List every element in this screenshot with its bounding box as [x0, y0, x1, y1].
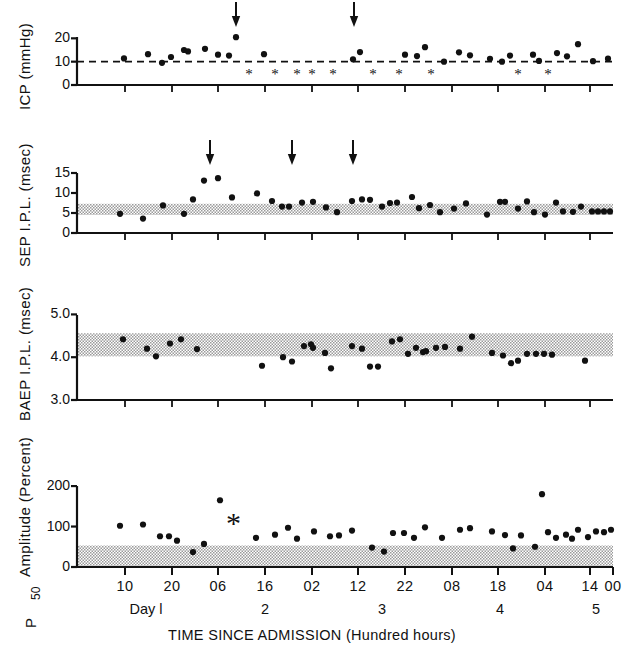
p50-y-tick-label: 200 [26, 477, 70, 493]
day-label: 2 [237, 601, 293, 617]
icp-data-point [530, 52, 536, 58]
sep-data-point [254, 190, 260, 196]
sep-data-point [349, 198, 355, 204]
baep-data-point [322, 350, 328, 356]
p50-data-point [174, 538, 180, 544]
sep-data-point [279, 204, 285, 210]
x-tick-label: 02 [292, 578, 332, 594]
sep-data-point [190, 196, 196, 202]
icp-asterisk-marker: * [293, 66, 301, 82]
sep-data-point [416, 205, 422, 211]
p50-data-point [294, 536, 300, 542]
p50-y-tick-label: 0 [26, 558, 70, 574]
sep-data-point [451, 206, 457, 212]
p50-y-axis-label-main: Amplitude (Percent) [16, 437, 33, 577]
icp-data-point [261, 51, 267, 57]
icp-data-point [414, 53, 420, 59]
icp-data-point [564, 53, 570, 59]
sep-data-point [502, 199, 508, 205]
baep-normal-range-band [77, 333, 613, 356]
p50-data-point [349, 527, 355, 533]
p50-data-point [201, 541, 207, 547]
p50-data-point [336, 532, 342, 538]
x-tick-label: 10 [105, 578, 145, 594]
baep-data-point [289, 358, 295, 364]
sep-data-point [359, 196, 365, 202]
icp-asterisk-marker: * [369, 66, 377, 82]
baep-data-point [457, 346, 463, 352]
sep-data-point [299, 200, 305, 206]
day-label: 3 [354, 601, 410, 617]
baep-data-point [259, 363, 265, 369]
baep-data-point [541, 351, 547, 357]
icp-y-tick-label: 0 [26, 76, 70, 92]
icp-data-point [422, 44, 428, 50]
sep-data-point [286, 204, 292, 210]
baep-data-point [375, 364, 381, 370]
p50-data-point [532, 544, 538, 550]
icp-data-point [145, 51, 151, 57]
day-label: Day l [118, 601, 174, 617]
p50-data-point [502, 532, 508, 538]
icp-data-point [402, 52, 408, 58]
sep-data-point [160, 202, 166, 208]
sep-data-point [560, 208, 566, 214]
sep-data-point [394, 200, 400, 206]
sep-y-tick-label: 0 [26, 224, 70, 240]
p50-data-point [422, 524, 428, 530]
baep-data-point [367, 364, 373, 370]
p50-data-point [369, 544, 375, 550]
icp-asterisk-marker: * [308, 66, 316, 82]
sep-data-point [578, 204, 584, 210]
sep-data-point [323, 204, 329, 210]
sep-data-point [607, 208, 613, 214]
sep-data-point [201, 178, 207, 184]
baep-data-point [280, 354, 286, 360]
p50-data-point [157, 533, 163, 539]
baep-y-tick-label: 5.0 [26, 305, 70, 321]
baep-data-point [433, 345, 439, 351]
sep-data-point [215, 175, 221, 181]
x-tick-label: 06 [198, 578, 238, 594]
icp-y-tick-label: 20 [26, 29, 70, 45]
icp-asterisk-marker: * [271, 66, 279, 82]
icp-asterisk-marker: * [514, 66, 522, 82]
baep-data-point [389, 338, 395, 344]
baep-data-point [515, 358, 521, 364]
icp-data-point [499, 59, 505, 65]
day-label: 5 [568, 601, 624, 617]
p50-data-point [253, 535, 259, 541]
sep-data-point [427, 202, 433, 208]
baep-data-point [328, 365, 334, 371]
baep-data-point [397, 336, 403, 342]
baep-data-point [144, 346, 150, 352]
baep-data-point [549, 352, 555, 358]
sep-data-point [463, 200, 469, 206]
p50-data-point [401, 530, 407, 536]
p50-data-point [327, 533, 333, 539]
x-tick-label: 22 [385, 578, 425, 594]
sep-data-point [601, 208, 607, 214]
baep-data-point [500, 352, 506, 358]
icp-asterisk-marker: * [427, 66, 435, 82]
p50-data-point [545, 529, 551, 535]
baep-data-point [413, 345, 419, 351]
icp-data-point [487, 56, 493, 62]
baep-data-point [469, 334, 475, 340]
sep-data-point [181, 211, 187, 217]
p50-y-axis-label-subscript: 50 [29, 587, 43, 600]
p50-data-point [593, 528, 599, 534]
p50-normal-range-band [77, 546, 613, 567]
x-tick-label: 04 [525, 578, 565, 594]
icp-data-point [159, 60, 165, 66]
baep-data-point [301, 343, 307, 349]
baep-data-point [310, 345, 316, 351]
baep-y-tick-label: 4.0 [26, 348, 70, 364]
p50-data-point [439, 535, 445, 541]
p50-data-point [518, 532, 524, 538]
baep-data-point [120, 336, 126, 342]
baep-data-point [153, 353, 159, 359]
icp-data-point [590, 58, 596, 64]
p50-data-point [285, 525, 291, 531]
p50-data-point [411, 535, 417, 541]
